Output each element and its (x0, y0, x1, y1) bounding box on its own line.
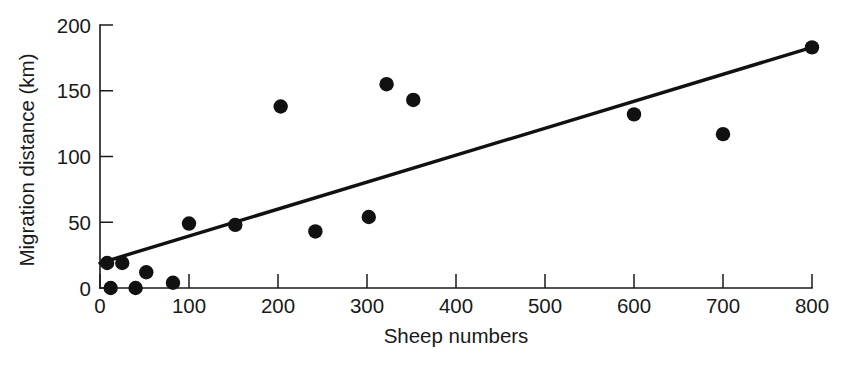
scatter-chart-figure: 050100150200 0100200300400500600700800 S… (0, 0, 854, 373)
data-point-marker (362, 210, 376, 224)
y-tick-label: 100 (57, 145, 91, 168)
data-point-marker (308, 224, 322, 238)
data-point-marker (406, 93, 420, 107)
data-point-marker (805, 40, 819, 54)
x-tick-label: 300 (350, 294, 384, 317)
y-tick-marks (100, 25, 113, 288)
data-point-marker (379, 77, 393, 91)
data-point-marker (100, 256, 114, 270)
x-tick-label: 600 (617, 294, 651, 317)
regression-trend-line (100, 47, 812, 263)
data-point-marker (716, 127, 730, 141)
y-tick-label: 50 (68, 211, 91, 234)
data-point-marker (115, 256, 129, 270)
data-point-marker (103, 281, 117, 295)
y-tick-label: 200 (57, 14, 91, 37)
x-tick-label: 500 (528, 294, 562, 317)
x-tick-label: 400 (439, 294, 473, 317)
data-point-marker (627, 107, 641, 121)
x-tick-labels: 0100200300400500600700800 (94, 294, 829, 317)
data-point-marker (139, 265, 153, 279)
trend-line-segment (100, 47, 812, 263)
x-tick-marks (100, 274, 812, 288)
data-point-marker (228, 218, 242, 232)
y-axis-title: Migration distance (km) (15, 53, 38, 266)
x-axis-title: Sheep numbers (384, 324, 529, 347)
data-point-marker (273, 99, 287, 113)
plot-canvas: 050100150200 0100200300400500600700800 S… (0, 0, 854, 373)
x-tick-label: 0 (94, 294, 105, 317)
y-tick-labels: 050100150200 (57, 14, 91, 300)
x-tick-label: 800 (795, 294, 829, 317)
data-point-marker (182, 216, 196, 230)
y-tick-label: 150 (57, 79, 91, 102)
x-tick-label: 100 (172, 294, 206, 317)
x-tick-label: 700 (706, 294, 740, 317)
y-tick-label: 0 (80, 277, 91, 300)
data-point-marker (166, 276, 180, 290)
x-tick-label: 200 (261, 294, 295, 317)
data-point-marker (128, 281, 142, 295)
